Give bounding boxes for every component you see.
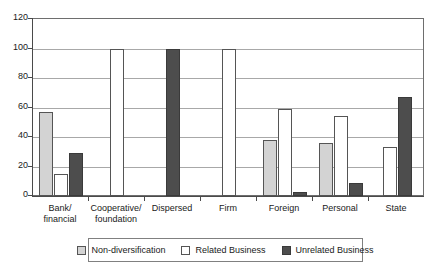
y-tick-mark xyxy=(28,136,32,137)
y-tick-label: 0 xyxy=(4,190,28,199)
bar xyxy=(293,192,307,196)
legend-label: Non-diversification xyxy=(91,245,165,255)
bar xyxy=(319,143,333,196)
bar xyxy=(54,174,68,196)
x-category-label: Cooperative/ foundation xyxy=(88,203,144,224)
x-category-label: Bank/ financial xyxy=(32,203,88,224)
x-tick-mark xyxy=(312,197,313,201)
legend-swatch-icon xyxy=(181,246,190,255)
x-category-label: Foreign xyxy=(256,203,312,214)
bars-layer xyxy=(33,19,423,196)
legend-swatch-icon xyxy=(282,246,291,255)
y-tick-mark xyxy=(28,18,32,19)
legend-label: Related Business xyxy=(195,245,265,255)
x-category-label: Dispersed xyxy=(144,203,200,214)
bar-chart: 020406080100120 Bank/ financialCooperati… xyxy=(0,0,435,273)
x-tick-mark xyxy=(88,197,89,201)
y-tick-label: 40 xyxy=(4,131,28,140)
x-category-label: Personal xyxy=(312,203,368,214)
legend-item[interactable]: Unrelated Business xyxy=(282,245,374,255)
x-category-label: State xyxy=(368,203,424,214)
y-tick-label: 20 xyxy=(4,161,28,170)
x-tick-mark xyxy=(200,197,201,201)
bar xyxy=(166,49,180,197)
y-tick-label: 100 xyxy=(4,43,28,52)
bar xyxy=(383,147,397,196)
legend-item[interactable]: Non-diversification xyxy=(77,245,165,255)
bar xyxy=(278,109,292,196)
x-tick-mark xyxy=(368,197,369,201)
bar xyxy=(69,153,83,196)
legend-item[interactable]: Related Business xyxy=(181,245,265,255)
y-tick-mark xyxy=(28,77,32,78)
y-tick-label: 120 xyxy=(4,13,28,22)
bar xyxy=(398,97,412,196)
x-axis-line xyxy=(32,196,424,197)
legend-label: Unrelated Business xyxy=(296,245,374,255)
y-tick-mark xyxy=(28,107,32,108)
legend-swatch-icon xyxy=(77,246,86,255)
bar xyxy=(222,49,236,197)
bar xyxy=(263,140,277,196)
y-tick-mark xyxy=(28,48,32,49)
y-tick-label: 60 xyxy=(4,102,28,111)
y-tick-mark xyxy=(28,166,32,167)
bar xyxy=(110,49,124,197)
chart-legend: Non-diversificationRelated BusinessUnrel… xyxy=(88,238,363,262)
x-category-label: Firm xyxy=(200,203,256,214)
x-tick-mark xyxy=(256,197,257,201)
bar xyxy=(334,116,348,196)
y-tick-label: 80 xyxy=(4,72,28,81)
bar xyxy=(349,183,363,196)
x-tick-mark xyxy=(144,197,145,201)
bar xyxy=(39,112,53,196)
